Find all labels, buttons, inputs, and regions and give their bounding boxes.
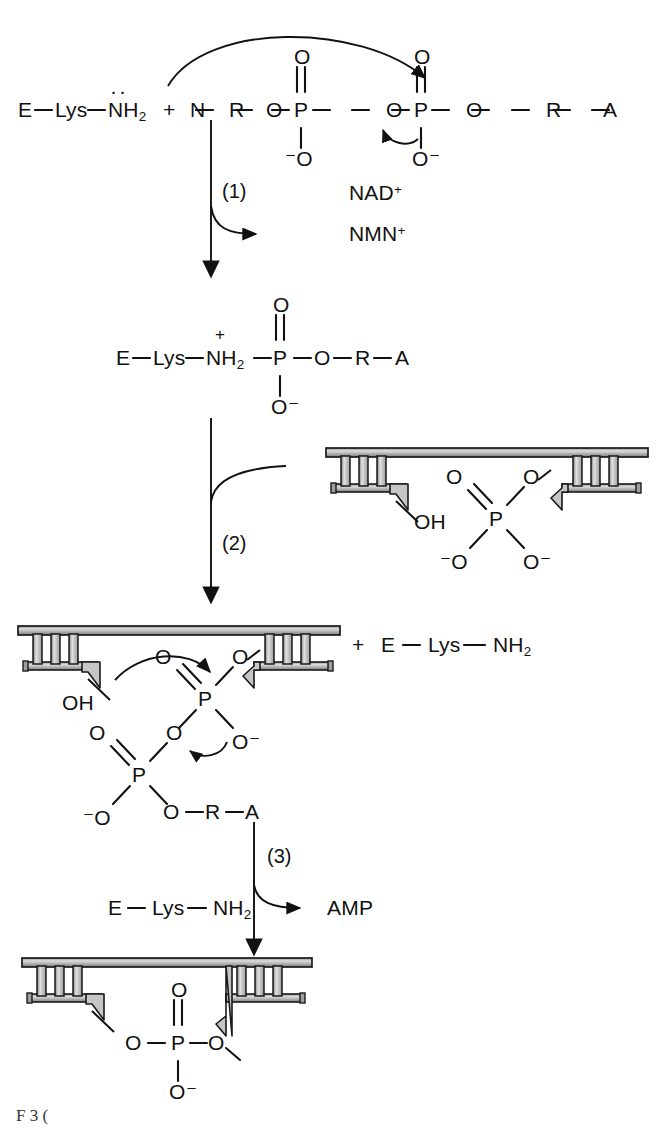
panel2-dna-OH: OH <box>414 511 446 532</box>
panel1-NH2-text: NH <box>108 98 139 121</box>
panel3-lower-bridge-O: O <box>166 722 183 743</box>
panel1-Lys: Lys <box>55 99 88 120</box>
panel2-phosphate-O-minus-right: O⁻ <box>523 551 551 572</box>
step1-label: (1) <box>222 180 246 203</box>
panel1-E: E <box>18 99 32 120</box>
step3-byproduct-arrow <box>254 885 300 908</box>
panel1-P2: P <box>414 99 428 120</box>
step1-byproduct-arrow <box>211 206 256 234</box>
panel3-NH2-text: NH <box>493 633 524 656</box>
panel1-P1-double-O: O <box>294 46 311 67</box>
panel2-A: A <box>395 347 409 368</box>
panel3-upper-double-O: O <box>155 646 172 667</box>
panel2-P-O-minus: O⁻ <box>271 396 299 417</box>
panel1-N: N <box>190 99 205 120</box>
panel4-right-O: O <box>208 1032 225 1053</box>
dna-duplex-product <box>22 958 312 1036</box>
panel2-n-plus: + <box>215 326 225 343</box>
panel3-dna-OH: OH <box>62 692 94 713</box>
panel2-P-double-O: O <box>273 294 290 315</box>
panel3-o-to-dna <box>247 650 260 660</box>
panel2-o-to-dna <box>538 470 551 480</box>
panel4-double-O: O <box>171 979 188 1000</box>
step2-label: (2) <box>222 532 246 555</box>
mechanism-arrow-pyrophosphate <box>190 742 227 756</box>
byproduct-amp: AMP <box>327 897 373 918</box>
panel1-O1: O <box>266 99 283 120</box>
panel3-lower-minus-O: ⁻O <box>83 807 111 828</box>
byproduct-nmn-charge: + <box>397 223 405 238</box>
panel4-P: P <box>171 1032 185 1053</box>
panel1-A: A <box>603 99 617 120</box>
step2-substrate-curve <box>211 466 286 502</box>
panel3-E: E <box>381 634 395 655</box>
panel3-upper-bridge-O: O <box>232 646 249 667</box>
dna-duplex-step2 <box>326 448 648 522</box>
panel3-reagent-NH2: NH2 <box>213 897 251 921</box>
panel2-phosphate-bridge-O: O <box>523 466 540 487</box>
panel3-Lys: Lys <box>428 634 461 655</box>
panel1-NH2: NH2 <box>108 99 146 123</box>
panel3-chain-A: A <box>245 801 259 822</box>
mechanism-arrow-leaving-group <box>383 130 418 144</box>
panel2-NH2-sub: 2 <box>237 357 245 372</box>
panel2-Lys: Lys <box>153 347 186 368</box>
step3-label: (3) <box>267 845 291 868</box>
panel3-lower-P: P <box>132 764 146 785</box>
panel2-R: R <box>355 347 370 368</box>
panel2-phosphate-P: P <box>489 508 503 529</box>
panel2-P: P <box>273 347 287 368</box>
panel2-E: E <box>116 347 130 368</box>
panel1-P1-O-minus: ⁻O <box>285 148 313 169</box>
byproduct-nmn-text: NMN <box>349 222 397 245</box>
panel1-plus: + <box>163 99 175 120</box>
dna-duplex-step3 <box>18 626 340 700</box>
panel2-NH2: NH2 <box>206 347 244 371</box>
panel3-chain-R: R <box>205 801 220 822</box>
panel3-upper-P: P <box>198 688 212 709</box>
panel3-lower-double-O: O <box>89 722 106 743</box>
panel2-phosphate-double-O: O <box>446 466 463 487</box>
panel3-NH2: NH2 <box>493 634 531 658</box>
panel3-reagent-NH2-sub: 2 <box>244 907 252 922</box>
panel4-O-minus: O⁻ <box>169 1081 197 1102</box>
panel2-O: O <box>314 347 331 368</box>
panel3-reagent-E: E <box>108 897 122 918</box>
panel1-P1: P <box>294 99 308 120</box>
cofactor-nad-charge: + <box>394 182 402 197</box>
panel3-plus: + <box>352 634 364 655</box>
panel1-O3: O <box>466 99 483 120</box>
figure-caption: F 3 ( <box>16 1106 48 1126</box>
panel3-NH2-sub: 2 <box>524 644 532 659</box>
panel1-NH2-sub: 2 <box>139 109 147 124</box>
panel3-reagent-NH2-text: NH <box>213 896 244 919</box>
panel4-left-O: O <box>125 1032 142 1053</box>
panel1-O2: O <box>386 99 403 120</box>
panel2-NH2-text: NH <box>206 346 237 369</box>
panel1-P2-O-minus: O⁻ <box>412 148 440 169</box>
cofactor-nad-text: NAD <box>349 181 394 204</box>
panel3-chain-O: O <box>163 801 180 822</box>
cofactor-nad: NAD+ <box>349 182 402 203</box>
panel3-upper-O-minus: O⁻ <box>232 731 260 752</box>
byproduct-nmn: NMN+ <box>349 223 406 244</box>
panel3-reagent-Lys: Lys <box>152 897 185 918</box>
panel1-R: R <box>229 99 244 120</box>
panel1-P2-double-O: O <box>414 46 431 67</box>
panel2-phosphate-minus-O-left: ⁻O <box>440 551 468 572</box>
panel1-R2: R <box>546 99 561 120</box>
